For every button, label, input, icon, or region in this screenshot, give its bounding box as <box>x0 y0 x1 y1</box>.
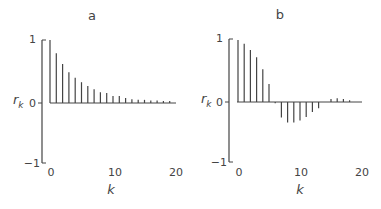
panel-b: b 1 0 −1 rk 0 10 20 k <box>201 7 369 197</box>
panel-b-xtick-label-0: 0 <box>236 166 243 179</box>
panel-b-ytick-label-1: 1 <box>216 32 223 45</box>
panel-a-ytick-label-neg1: −1 <box>24 157 40 170</box>
panel-b-xlabel: k <box>296 182 304 197</box>
panel-b-bars <box>238 40 356 122</box>
panel-b-title: b <box>276 7 284 22</box>
panel-a-xtick-label-20: 20 <box>169 166 183 179</box>
panel-b-ytick-label-neg1: −1 <box>211 156 227 169</box>
panel-b-ytick-label-0: 0 <box>216 96 223 109</box>
acf-figure: a 1 0 −1 rk 0 10 20 k b 1 0 −1 rk 0 10 2… <box>0 0 381 209</box>
panel-a-xtick-label-10: 10 <box>108 166 122 179</box>
panel-a-xtick-label-0: 0 <box>48 166 55 179</box>
panel-a: a 1 0 −1 rk 0 10 20 k <box>13 8 183 197</box>
panel-a-title: a <box>88 8 96 23</box>
panel-a-bars <box>50 40 170 103</box>
panel-a-xlabel: k <box>107 182 115 197</box>
panel-b-xtick-label-20: 20 <box>355 166 369 179</box>
panel-b-xtick-label-10: 10 <box>294 166 308 179</box>
panel-b-ylabel: rk <box>201 91 212 109</box>
panel-a-ylabel: rk <box>13 92 24 110</box>
panel-a-ytick-label-0: 0 <box>29 97 36 110</box>
panel-a-ytick-label-1: 1 <box>29 33 36 46</box>
